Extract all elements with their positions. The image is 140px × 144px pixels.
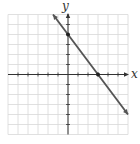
- coordinate-graph: x y: [0, 0, 140, 144]
- y-axis-label: y: [61, 0, 69, 13]
- axes: [8, 13, 129, 135]
- x-axis-label: x: [131, 67, 138, 81]
